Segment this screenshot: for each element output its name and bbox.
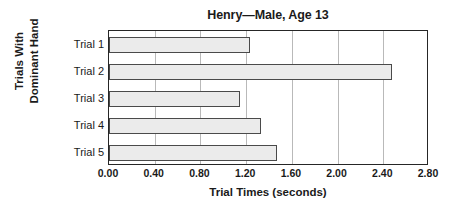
bar-row (109, 85, 427, 112)
bar (109, 91, 240, 107)
y-axis-title-line-2: Dominant Hand (28, 19, 42, 104)
y-axis-tick-label: Trial 1 (40, 30, 104, 57)
bar (109, 118, 261, 134)
x-axis-tick-label: 2.40 (359, 167, 405, 179)
bar-chart-figure: Henry—Male, Age 13 Trials With Dominant … (0, 0, 457, 213)
bars-layer (109, 31, 427, 164)
plot-area (108, 30, 428, 165)
y-axis-tick-label: Trial 3 (40, 84, 104, 111)
x-axis-title: Trial Times (seconds) (108, 186, 428, 198)
chart-title: Henry—Male, Age 13 (108, 8, 428, 22)
x-axis-tick-label: 1.20 (222, 167, 268, 179)
x-axis-tick-label: 2.00 (314, 167, 360, 179)
bar-row (109, 58, 427, 85)
bar (109, 145, 277, 161)
x-axis-tick-labels: 0.000.400.801.201.602.002.402.80 (108, 167, 428, 183)
y-axis-title: Trials With Dominant Hand (10, 0, 44, 136)
x-axis-tick-label: 2.80 (405, 167, 451, 179)
bar-row (109, 112, 427, 139)
y-axis-tick-labels: Trial 1Trial 2Trial 3Trial 4Trial 5 (40, 30, 104, 165)
x-axis-tick-label: 0.40 (131, 167, 177, 179)
y-axis-tick-label: Trial 5 (40, 138, 104, 165)
x-axis-tick-label: 1.60 (268, 167, 314, 179)
bar (109, 37, 250, 53)
x-axis-tick-label: 0.00 (85, 167, 131, 179)
bar-row (109, 139, 427, 166)
y-axis-title-line-1: Trials With (13, 32, 27, 90)
y-axis-tick-label: Trial 2 (40, 57, 104, 84)
y-axis-tick-label: Trial 4 (40, 111, 104, 138)
bar (109, 64, 392, 80)
bar-row (109, 31, 427, 58)
x-axis-tick-label: 0.80 (176, 167, 222, 179)
